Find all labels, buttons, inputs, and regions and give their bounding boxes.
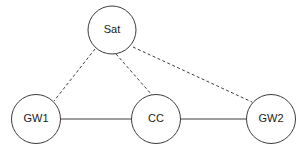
- node-sat-label: Sat: [104, 23, 121, 35]
- edge-sat-cc: [116, 54, 152, 95]
- node-gw1-label: GW1: [23, 112, 48, 124]
- edge-sat-gw1: [54, 49, 95, 101]
- network-topology-diagram: Sat GW1 CC GW2: [0, 0, 306, 153]
- node-sat[interactable]: Sat: [88, 6, 136, 54]
- node-gw2[interactable]: GW2: [247, 95, 296, 144]
- node-gw1[interactable]: GW1: [12, 95, 61, 144]
- node-layer: Sat GW1 CC GW2: [12, 6, 296, 144]
- node-cc[interactable]: CC: [132, 95, 181, 144]
- node-gw2-label: GW2: [258, 112, 283, 124]
- edge-sat-gw2: [133, 47, 252, 102]
- node-cc-label: CC: [148, 112, 164, 124]
